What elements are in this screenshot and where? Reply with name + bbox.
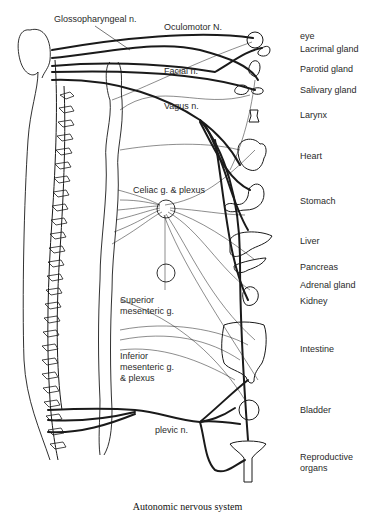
sympathetic-fibers (112, 42, 258, 400)
label-superior-mesenteric-2: mesenteric g. (120, 306, 174, 316)
label-salivary-gland: Salivary gland (300, 85, 357, 96)
label-parotid-gland: Parotid gland (300, 64, 353, 75)
label-pelvic: plevic n. (155, 425, 188, 435)
label-kidney: Kidney (300, 296, 328, 307)
figure-caption: Autonomic nervous system (0, 501, 375, 512)
label-intestine: Intestine (300, 344, 334, 355)
reproductive-organ (230, 441, 266, 482)
label-reproductive-organs-line2: organs (300, 463, 328, 474)
label-inferior-mesenteric-3: & plexus (120, 373, 155, 383)
sympathetic-chain (99, 62, 123, 455)
label-heart: Heart (300, 151, 322, 162)
body-outline (18, 29, 50, 460)
label-reproductive-organs-line1: Reproductive (300, 452, 353, 463)
label-pancreas: Pancreas (300, 262, 338, 273)
label-liver: Liver (300, 236, 320, 247)
eye-organ (247, 32, 263, 48)
celiac-ganglion (157, 200, 175, 218)
bladder-organ (239, 400, 259, 420)
label-celiac: Celiac g. & plexus (133, 185, 205, 195)
oculomotor-nerve (52, 35, 253, 50)
pelvic-nerves (48, 380, 248, 471)
label-eye: eye (300, 31, 315, 42)
vertebrae (42, 92, 74, 449)
label-oculomotor: Oculomotor N. (164, 22, 222, 32)
larynx-organ (249, 110, 259, 122)
label-stomach: Stomach (300, 196, 336, 207)
liver-organ (230, 232, 272, 257)
label-glossopharyngeal: Glossopharyngeal n. (54, 14, 137, 24)
label-lacrimal-gland: Lacrimal gland (300, 44, 359, 55)
label-adrenal-gland: Adrenal gland (300, 280, 356, 291)
vagus-nerve (52, 80, 240, 165)
label-superior-mesenteric-1: Superior (120, 295, 154, 305)
label-inferior-mesenteric-2: mesenteric g. (120, 362, 174, 372)
label-larynx: Larynx (300, 110, 327, 121)
glossopharyngeal-pointer (95, 26, 130, 50)
ganglia (157, 200, 175, 282)
label-inferior-mesenteric-1: Inferior (120, 351, 148, 361)
superior-mesenteric-ganglion (157, 264, 175, 282)
label-vagus: Vagus n. (164, 101, 199, 111)
autonomic-nervous-system-diagram (0, 0, 375, 513)
label-facial: Facial n. (164, 66, 198, 76)
pancreas-organ (234, 258, 266, 273)
kidney-organ (243, 287, 259, 306)
label-bladder: Bladder (300, 405, 331, 416)
salivary-organ (235, 85, 263, 95)
heart-organ (238, 139, 266, 170)
